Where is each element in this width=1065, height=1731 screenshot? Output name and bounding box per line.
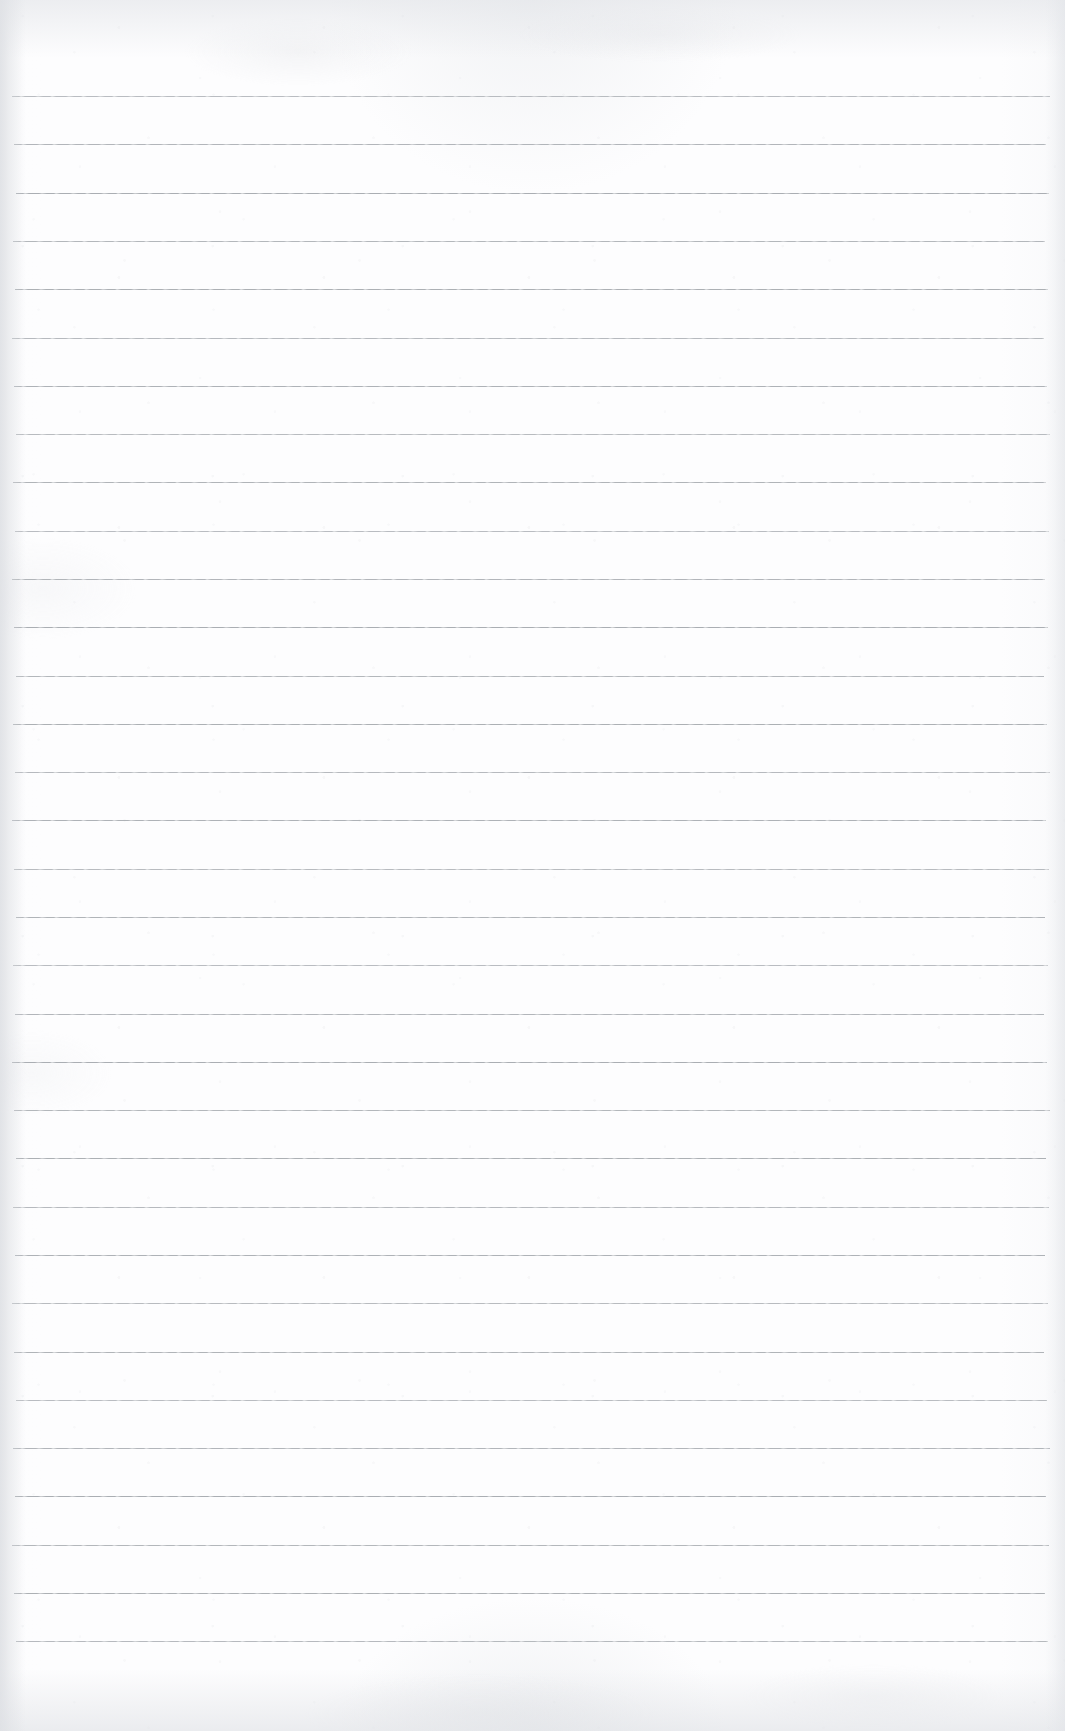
rule-line bbox=[12, 1545, 1049, 1546]
rule-line bbox=[16, 1400, 1047, 1401]
rule-line bbox=[12, 1062, 1047, 1063]
rule-line bbox=[15, 531, 1049, 532]
rule-line bbox=[12, 820, 1046, 821]
rule-line bbox=[14, 144, 1046, 145]
rule-line bbox=[12, 338, 1044, 339]
rule-line bbox=[13, 965, 1048, 966]
rule-line bbox=[13, 1207, 1049, 1208]
rule-line bbox=[13, 241, 1045, 242]
rule-line bbox=[13, 724, 1047, 725]
rule-line bbox=[16, 1158, 1046, 1159]
rule-line bbox=[15, 1496, 1046, 1497]
rule-line bbox=[15, 772, 1050, 773]
lined-paper-page bbox=[0, 0, 1065, 1731]
rule-line bbox=[12, 96, 1050, 97]
rule-line bbox=[14, 627, 1048, 628]
rule-line bbox=[14, 1110, 1050, 1111]
rule-line bbox=[14, 869, 1049, 870]
rule-line bbox=[15, 1255, 1045, 1256]
rule-line bbox=[15, 1014, 1044, 1015]
rule-line bbox=[16, 434, 1050, 435]
rule-line bbox=[14, 386, 1047, 387]
rule-line bbox=[13, 1448, 1050, 1449]
rule-line bbox=[12, 1303, 1048, 1304]
rule-line bbox=[14, 1593, 1045, 1594]
rule-line bbox=[15, 289, 1048, 290]
rule-line bbox=[14, 1352, 1044, 1353]
rule-line bbox=[13, 482, 1046, 483]
rule-line bbox=[16, 1641, 1048, 1642]
rule-line bbox=[16, 676, 1044, 677]
rule-line bbox=[16, 193, 1049, 194]
rule-line bbox=[16, 917, 1045, 918]
ruled-lines-group bbox=[0, 0, 1065, 1731]
rule-line bbox=[12, 579, 1045, 580]
